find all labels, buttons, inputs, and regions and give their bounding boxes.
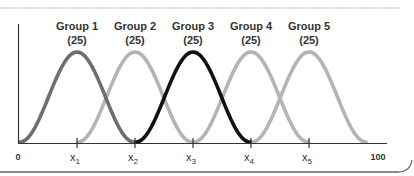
- tick-label: x2: [128, 151, 139, 166]
- tick-label: x1: [70, 151, 81, 166]
- x-axis-max-label: 100: [370, 152, 385, 162]
- tick-label: x3: [186, 151, 197, 166]
- group-label: Group 1: [56, 20, 98, 32]
- group-label: Group 3: [172, 20, 214, 32]
- curve-group-5: [252, 52, 366, 142]
- group-labels: Group 1(25)Group 2(25)Group 3(25)Group 4…: [56, 20, 330, 46]
- curve-group-2: [78, 52, 192, 142]
- tick-label: x5: [302, 151, 313, 166]
- bottom-frame-border: [0, 160, 412, 172]
- curve-group-3: [136, 52, 250, 142]
- group-label: Group 2: [114, 20, 156, 32]
- group-count-label: (25): [183, 34, 203, 46]
- group-label: Group 5: [288, 20, 330, 32]
- distribution-chart: x1x2x3x4x5 0 100 Group 1(25)Group 2(25)G…: [0, 0, 414, 176]
- curve-group-4: [194, 52, 308, 142]
- distribution-curves: [20, 52, 366, 142]
- group-count-label: (25): [67, 34, 87, 46]
- tick-label: x4: [244, 151, 255, 166]
- x-axis-min-label: 0: [15, 152, 20, 162]
- curve-group-1: [20, 52, 134, 142]
- group-count-label: (25): [241, 34, 261, 46]
- group-count-label: (25): [299, 34, 319, 46]
- group-label: Group 4: [230, 20, 273, 32]
- group-count-label: (25): [125, 34, 145, 46]
